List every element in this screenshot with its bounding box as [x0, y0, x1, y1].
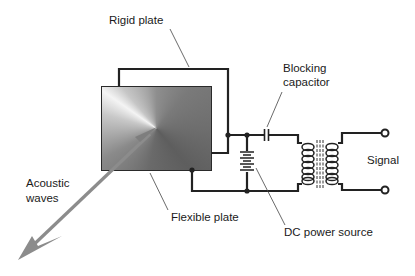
dc-source-leader	[256, 168, 285, 225]
dc-power-source	[240, 152, 254, 170]
secondary-wire-bottom	[338, 184, 381, 190]
transformer-core	[317, 140, 323, 188]
blocking-capacitor-label-line1: Blocking	[283, 61, 326, 75]
flexible-plate-leader	[150, 173, 168, 210]
rigid-plate-label: Rigid plate	[109, 13, 163, 27]
dc-power-source-label: DC power source	[284, 225, 373, 239]
junction-dots	[189, 132, 249, 193]
blocking-capacitor	[265, 129, 269, 141]
transformer-secondary-coil	[326, 143, 338, 184]
condenser-microphone-diagram: Rigid plate Blocking capacitor Signal Ac…	[0, 0, 415, 276]
acoustic-waves-label-line2: waves	[26, 191, 59, 205]
rigid-plate-leader	[170, 29, 189, 67]
top-wire-right	[269, 135, 302, 143]
signal-label: Signal	[367, 153, 399, 167]
capacitor-leader	[267, 92, 282, 127]
rigid-plate-wire	[119, 69, 228, 153]
transformer-primary-coil	[302, 143, 314, 184]
flexible-plate-label: Flexible plate	[171, 210, 239, 224]
blocking-capacitor-label-line2: capacitor	[283, 75, 330, 89]
wires	[119, 69, 381, 191]
leader-lines	[150, 29, 285, 225]
secondary-wire-top	[338, 133, 381, 143]
acoustic-waves-label-line1: Acoustic	[26, 176, 69, 190]
